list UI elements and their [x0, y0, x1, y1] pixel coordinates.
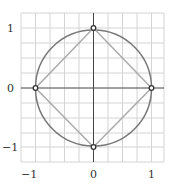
y-tick-label: −1: [2, 142, 18, 153]
y-tick-label: 1: [7, 23, 14, 34]
x-tick-label: −1: [21, 169, 37, 180]
x-tick-label: 1: [148, 169, 155, 180]
x-tick-label: 0: [90, 169, 97, 180]
unit-circle-diagram: [0, 0, 173, 189]
axes: [21, 13, 164, 162]
y-tick-label: 0: [7, 83, 14, 94]
